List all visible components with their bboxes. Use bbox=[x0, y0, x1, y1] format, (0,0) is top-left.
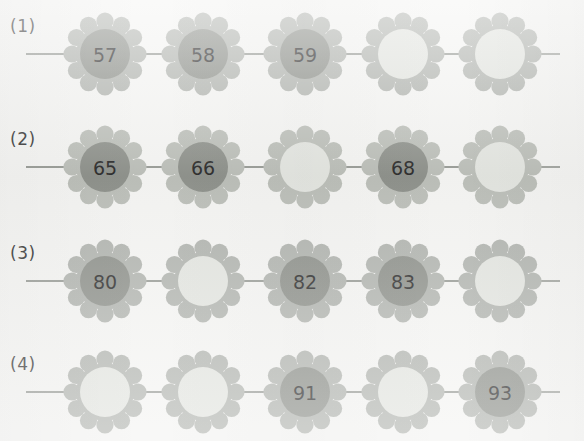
flower-number: 59 bbox=[293, 44, 317, 66]
flower-chain-svg: 656668 bbox=[0, 113, 584, 221]
flower-blank[interactable] bbox=[361, 12, 444, 95]
flower-row-4: (4) 9193 bbox=[0, 338, 584, 441]
flower-center-disc[interactable] bbox=[475, 142, 525, 192]
flower-center-disc[interactable] bbox=[178, 256, 228, 306]
flower-filled[interactable]: 59 bbox=[263, 12, 346, 95]
flower-number: 80 bbox=[93, 271, 117, 293]
flower-blank[interactable] bbox=[458, 239, 541, 322]
flower-filled[interactable]: 68 bbox=[361, 125, 444, 208]
flower-filled[interactable]: 91 bbox=[263, 350, 346, 433]
flower-number: 82 bbox=[293, 271, 317, 293]
flower-number: 83 bbox=[391, 271, 415, 293]
flower-number: 93 bbox=[488, 382, 512, 404]
flower-blank[interactable] bbox=[361, 350, 444, 433]
flower-chain-svg: 9193 bbox=[0, 338, 584, 441]
flower-number: 58 bbox=[191, 44, 215, 66]
flower-chain-3: 808283 bbox=[0, 227, 584, 335]
flower-filled[interactable]: 57 bbox=[63, 12, 146, 95]
flower-chain-4: 9193 bbox=[0, 338, 584, 441]
flower-number: 91 bbox=[293, 382, 317, 404]
flower-chain-svg: 575859 bbox=[0, 0, 584, 108]
flower-blank[interactable] bbox=[63, 350, 146, 433]
flower-center-disc[interactable] bbox=[475, 256, 525, 306]
flower-center-disc[interactable] bbox=[378, 367, 428, 417]
flower-center-disc[interactable] bbox=[80, 367, 130, 417]
flower-number: 65 bbox=[93, 157, 117, 179]
flower-blank[interactable] bbox=[458, 12, 541, 95]
flower-center-disc[interactable] bbox=[280, 142, 330, 192]
worksheet-canvas: (1) 575859 (2) 656668 (3) 808283 (4) 919… bbox=[0, 0, 584, 441]
flower-center-disc[interactable] bbox=[378, 29, 428, 79]
flower-blank[interactable] bbox=[458, 125, 541, 208]
flower-chain-svg: 808283 bbox=[0, 227, 584, 335]
flower-number: 68 bbox=[391, 157, 415, 179]
flower-center-disc[interactable] bbox=[178, 367, 228, 417]
flower-blank[interactable] bbox=[161, 350, 244, 433]
flower-number: 57 bbox=[93, 44, 117, 66]
flower-filled[interactable]: 66 bbox=[161, 125, 244, 208]
flower-filled[interactable]: 65 bbox=[63, 125, 146, 208]
flower-row-3: (3) 808283 bbox=[0, 227, 584, 335]
flower-center-disc[interactable] bbox=[475, 29, 525, 79]
flower-filled[interactable]: 80 bbox=[63, 239, 146, 322]
flower-number: 66 bbox=[191, 157, 215, 179]
flower-chain-2: 656668 bbox=[0, 113, 584, 221]
flower-row-2: (2) 656668 bbox=[0, 113, 584, 221]
flower-filled[interactable]: 58 bbox=[161, 12, 244, 95]
flower-row-1: (1) 575859 bbox=[0, 0, 584, 108]
flower-chain-1: 575859 bbox=[0, 0, 584, 108]
flower-filled[interactable]: 82 bbox=[263, 239, 346, 322]
flower-filled[interactable]: 93 bbox=[458, 350, 541, 433]
flower-blank[interactable] bbox=[263, 125, 346, 208]
flower-blank[interactable] bbox=[161, 239, 244, 322]
flower-filled[interactable]: 83 bbox=[361, 239, 444, 322]
